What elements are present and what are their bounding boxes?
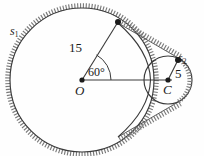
point-on-s1-dot [115, 19, 121, 25]
geometry-figure: s1 s2 15 60° O C 5 [0, 0, 204, 156]
label-circle-s1-subscript: 1 [15, 30, 19, 39]
label-circle-s2: s2 [178, 52, 186, 65]
label-radius-15: 15 [69, 41, 82, 54]
label-angle-60: 60° [88, 66, 105, 78]
label-circle-s1: s1 [10, 25, 18, 38]
label-radius-5: 5 [175, 67, 182, 80]
point-O-dot [79, 77, 84, 82]
label-center-O: O [75, 84, 84, 97]
label-circle-s2-subscript: 2 [183, 57, 187, 66]
label-center-C: C [163, 83, 172, 96]
